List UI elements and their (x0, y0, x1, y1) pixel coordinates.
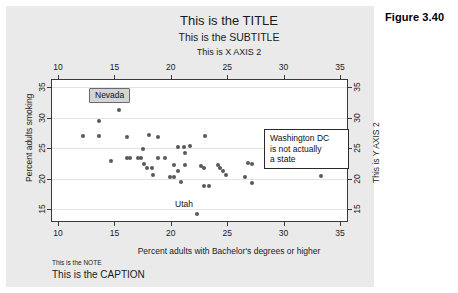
x-tick-top (58, 75, 59, 79)
data-point (207, 184, 211, 188)
data-point (183, 151, 187, 155)
data-point (128, 156, 132, 160)
x-tick-bottom (171, 222, 172, 226)
y-axis-label: Percent adults smoking (24, 94, 34, 182)
data-point (156, 135, 160, 139)
y-axis-secondary-label: This is Y AXIS 2 (371, 122, 381, 183)
data-point (147, 133, 151, 137)
y-tick-label-right: 25 (352, 143, 362, 152)
annotation-dc-line-1: Washington DC (270, 133, 344, 144)
data-point (221, 169, 225, 173)
data-point (203, 134, 207, 138)
y-tick-label-right: 15 (352, 204, 362, 213)
annotation-washington-dc: Washington DC is not actually a state (264, 129, 349, 169)
chart-title: This is the TITLE (0, 13, 458, 28)
data-point (179, 180, 183, 184)
data-point (141, 147, 145, 151)
x-tick-top (284, 75, 285, 79)
y-tick-label-right: 20 (352, 174, 362, 183)
y-tick-left (47, 148, 51, 149)
data-point (139, 156, 143, 160)
data-point (250, 162, 254, 166)
y-tick-label-left: 35 (37, 82, 47, 91)
y-tick-label-left: 30 (37, 113, 47, 122)
data-point (319, 174, 323, 178)
data-point (109, 159, 113, 163)
x-tick-bottom (58, 222, 59, 226)
data-point (183, 163, 187, 167)
data-point (250, 181, 254, 185)
y-tick-left (47, 179, 51, 180)
x-tick-top (227, 75, 228, 79)
data-point (125, 135, 129, 139)
x-tick-label-top: 35 (335, 62, 344, 72)
gridline (52, 179, 347, 180)
chart-subtitle: This is the SUBTITLE (0, 31, 458, 43)
data-point (151, 173, 155, 177)
data-point (156, 156, 160, 160)
x-tick-label-bottom: 25 (222, 228, 231, 238)
x-tick-bottom (227, 222, 228, 226)
data-point (97, 134, 101, 138)
x-tick-bottom (340, 222, 341, 226)
data-point (246, 161, 250, 165)
x-tick-label-bottom: 15 (110, 228, 119, 238)
gridline (52, 118, 347, 119)
x-tick-bottom (114, 222, 115, 226)
data-point (168, 175, 172, 179)
data-point (163, 156, 167, 160)
x-tick-label-top: 25 (222, 62, 231, 72)
x-tick-top (340, 75, 341, 79)
y-tick-left (47, 87, 51, 88)
annotation-utah: Utah (175, 199, 193, 209)
x-tick-label-top: 15 (110, 62, 119, 72)
x-tick-label-top: 30 (279, 62, 288, 72)
y-tick-label-left: 15 (37, 204, 47, 213)
x-tick-label-bottom: 30 (279, 228, 288, 238)
annotation-dc-line-2: is not actually (270, 144, 344, 155)
x-axis-label: Percent adults with Bachelor's degrees o… (0, 246, 458, 256)
data-point (145, 166, 149, 170)
data-point (97, 119, 101, 123)
data-point (224, 173, 228, 177)
data-point (172, 163, 176, 167)
data-point (202, 184, 206, 188)
y-tick-label-left: 20 (37, 174, 47, 183)
data-point (202, 166, 206, 170)
x-tick-top (171, 75, 172, 79)
x-tick-label-bottom: 10 (53, 228, 62, 238)
gridline (52, 209, 347, 210)
x-tick-top (114, 75, 115, 79)
x-tick-label-top: 10 (53, 62, 62, 72)
annotation-nevada: Nevada (89, 88, 130, 103)
y-tick-label-right: 30 (352, 113, 362, 122)
x-axis-secondary-title: This is X AXIS 2 (0, 47, 458, 57)
y-tick-left (47, 118, 51, 119)
annotation-dc-line-3: a state (270, 154, 344, 165)
x-tick-bottom (284, 222, 285, 226)
y-tick-label-right: 35 (352, 82, 362, 91)
y-tick-left (47, 209, 51, 210)
data-point (81, 134, 85, 138)
x-tick-label-top: 20 (166, 62, 175, 72)
y-tick-label-left: 25 (37, 143, 47, 152)
figure-caption: This is the CAPTION (52, 269, 145, 280)
figure-note: This is the NOTE (52, 259, 101, 266)
data-point-utah (195, 212, 199, 216)
data-point (176, 169, 180, 173)
data-point (150, 166, 154, 170)
x-tick-label-bottom: 35 (335, 228, 344, 238)
data-point-nevada (117, 108, 121, 112)
x-tick-label-bottom: 20 (166, 228, 175, 238)
